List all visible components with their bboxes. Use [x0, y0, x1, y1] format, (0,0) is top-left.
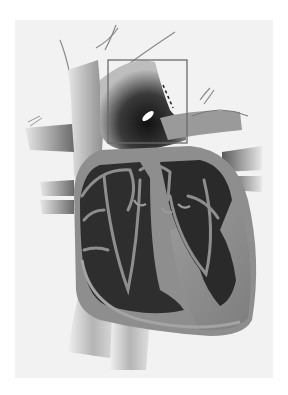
heart-illustration — [0, 0, 288, 395]
heart-diagram-svg — [0, 0, 288, 395]
